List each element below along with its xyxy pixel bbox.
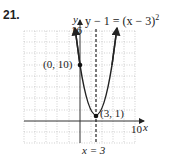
y-tick-16: 16 [71, 24, 83, 36]
parabola-graph: y y − 1 = (x − 3)2 16 (0, 10) (3, 1) 10 … [0, 0, 174, 157]
point-label-0-10: (0, 10) [43, 58, 73, 71]
point-label-3-1: (3, 1) [100, 107, 124, 120]
point-0-10 [78, 63, 83, 68]
equation-label: y − 1 = (x − 3)2 [85, 13, 159, 28]
symmetry-label: x = 3 [81, 144, 106, 156]
vertex-point [94, 114, 99, 119]
x-axis-label: x [142, 121, 148, 133]
x-tick-10: 10 [131, 123, 143, 135]
